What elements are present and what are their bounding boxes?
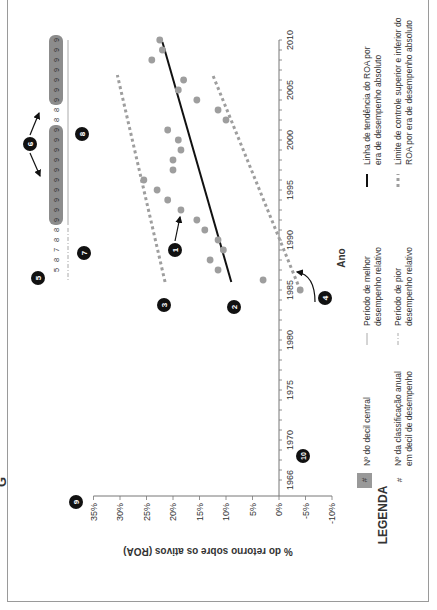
year-tick-label: 2010: [285, 30, 295, 50]
roa-tick-label: 0%: [274, 503, 284, 516]
year-tick-label: 1966: [285, 470, 295, 490]
svg-text:5: 5: [34, 275, 43, 280]
decile-value: 9: [52, 158, 61, 162]
decile-value: 9: [52, 68, 61, 72]
roa-tick-label: 25%: [142, 503, 152, 521]
decile-value: 5: [52, 268, 61, 272]
legend-label: Período de melhor: [362, 256, 372, 326]
legend-label: desempenho relativo: [373, 247, 383, 326]
roa-tick-label: 20%: [168, 503, 178, 521]
legend-label: desempenho relativo: [404, 247, 414, 326]
data-point: [178, 207, 185, 214]
decile-value: 8: [52, 238, 61, 242]
data-point: [164, 127, 171, 134]
decile-value: 9: [52, 128, 61, 132]
decile-value: 9: [52, 98, 61, 102]
annotation-marker-6: 6: [23, 137, 37, 151]
data-point: [178, 147, 185, 154]
data-point: [180, 77, 187, 84]
svg-text:4: 4: [321, 295, 330, 300]
data-point: [193, 217, 200, 224]
decile-value: 9: [52, 208, 61, 212]
data-point: [159, 47, 166, 54]
data-point: [215, 267, 222, 274]
annotation-marker-3: 3: [157, 298, 171, 312]
decile-value: 8: [52, 108, 61, 112]
legend-label: Período de pior: [393, 268, 403, 326]
annotation-marker-7: 7: [77, 246, 91, 260]
data-point: [140, 177, 147, 184]
roa-tick-label: 15%: [195, 503, 205, 521]
data-point: [220, 247, 227, 254]
decile-value: 9: [52, 148, 61, 152]
decile-value: 9: [52, 168, 61, 172]
roa-tick-label: 10%: [221, 503, 231, 521]
annotation-marker-2: 2: [227, 300, 241, 314]
decile-value: 9: [52, 88, 61, 92]
svg-text:10: 10: [300, 452, 307, 460]
legend-label: Nº da classificação anual: [393, 371, 403, 466]
roa-axis-title: % do retorno sobre os ativos (ROA): [123, 546, 292, 557]
year-axis-title: Ano: [336, 248, 347, 267]
legend-label: Nº do decil central: [362, 397, 372, 466]
decile-value: 9: [52, 58, 61, 62]
decile-value: 9: [52, 48, 61, 52]
decile-value: 9: [52, 218, 61, 222]
decile-value: 7: [52, 248, 61, 252]
decile-value: 8: [52, 258, 61, 262]
data-point: [164, 197, 171, 204]
legend: LEGENDA#Nº do decil central#Nº da classi…: [357, 17, 414, 544]
data-point: [215, 107, 222, 114]
roa-tick-label: 5%: [248, 503, 258, 516]
data-point: [201, 227, 208, 234]
roa-tick-label: 30%: [115, 503, 125, 521]
year-tick-label: 2005: [285, 80, 295, 100]
annotation-marker-4: 4: [318, 291, 332, 305]
data-point: [156, 37, 163, 44]
year-tick-label: 2000: [285, 130, 295, 150]
roa-tick-label: 35%: [89, 503, 99, 521]
legend-label: era de desempenho absoluto: [373, 55, 383, 165]
year-tick-label: 1970: [285, 430, 295, 450]
figure-letter: G: [0, 477, 9, 487]
svg-text:#: #: [360, 477, 369, 482]
data-point: [223, 117, 230, 124]
data-point: [175, 87, 182, 94]
decile-value: 9: [52, 138, 61, 142]
data-point: [170, 157, 177, 164]
data-point: [260, 277, 267, 284]
decile-value: 8: [52, 228, 61, 232]
year-tick-label: 1990: [285, 230, 295, 250]
legend-title: LEGENDA: [376, 485, 390, 544]
svg-text:1: 1: [171, 247, 180, 252]
data-point: [154, 187, 161, 194]
data-point: [297, 287, 304, 294]
decile-value: 8: [52, 118, 61, 122]
decile-value: 9: [52, 178, 61, 182]
svg-text:8: 8: [78, 131, 87, 136]
legend-label: Limite de controle superior e inferior d…: [393, 17, 403, 165]
svg-text:6: 6: [26, 141, 35, 146]
data-point: [175, 137, 182, 144]
roa-chart: 1966197019751980198519901995200020052010…: [0, 0, 437, 610]
svg-text:#: #: [395, 477, 404, 482]
svg-text:7: 7: [80, 250, 89, 255]
legend-label: em decil de desempenho: [404, 371, 414, 466]
svg-text:9: 9: [72, 499, 81, 504]
svg-text:2: 2: [230, 304, 239, 309]
year-tick-label: 1985: [285, 280, 295, 300]
svg-text:3: 3: [160, 302, 169, 307]
annotation-marker-10: 10: [296, 449, 310, 463]
decile-value: 9: [52, 188, 61, 192]
year-tick-label: 1975: [285, 380, 295, 400]
decile-value: 9: [52, 198, 61, 202]
decile-strip: 587889999999999889999999: [49, 35, 68, 282]
legend-label: ROA por era de desempenho absoluto: [404, 20, 414, 165]
legend-label: Linha de tendência do ROA por: [362, 46, 372, 165]
data-point: [215, 237, 222, 244]
annotation-marker-8: 8: [75, 127, 89, 141]
trend-and-control-lines: [117, 42, 300, 290]
roa-tick-label: -10%: [327, 503, 337, 524]
data-point: [170, 167, 177, 174]
roa-tick-label: -5%: [301, 503, 311, 519]
